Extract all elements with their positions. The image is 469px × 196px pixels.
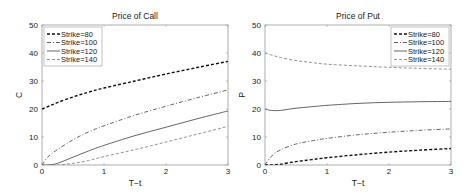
chart-canvas: 012301020304050Price of CallT−tCStrike=8… — [0, 0, 469, 196]
legend-label: Strike=140 — [408, 55, 444, 64]
x-tick-label: 0 — [263, 167, 268, 176]
x-axis-label: T−t — [352, 178, 365, 188]
x-tick-label: 2 — [387, 167, 392, 176]
y-tick-label: 40 — [29, 49, 38, 58]
y-tick-label: 10 — [252, 133, 261, 142]
chart-title: Price of Put — [336, 11, 381, 21]
x-tick-label: 3 — [226, 167, 231, 176]
y-tick-label: 40 — [252, 49, 261, 58]
x-axis-label: T−t — [129, 178, 142, 188]
x-tick-label: 2 — [164, 167, 169, 176]
y-axis-label: C — [14, 92, 24, 98]
x-tick-label: 0 — [40, 167, 45, 176]
y-tick-label: 20 — [252, 105, 261, 114]
chart-title: Price of Call — [112, 11, 158, 21]
y-tick-label: 10 — [29, 133, 38, 142]
x-tick-label: 1 — [102, 167, 107, 176]
legend-label: Strike=140 — [61, 55, 97, 64]
y-tick-label: 30 — [29, 77, 38, 86]
legend: Strike=80Strike=100Strike=120Strike=140 — [44, 27, 102, 66]
y-tick-label: 0 — [257, 161, 262, 170]
y-axis-label: P — [237, 92, 247, 98]
y-tick-label: 50 — [29, 21, 38, 30]
legend: Strike=80Strike=100Strike=120Strike=140 — [391, 27, 449, 66]
y-tick-label: 30 — [252, 77, 261, 86]
y-tick-label: 50 — [252, 21, 261, 30]
x-tick-label: 3 — [449, 167, 454, 176]
call-price-chart: 012301020304050Price of CallT−tCStrike=8… — [14, 11, 231, 188]
y-tick-label: 20 — [29, 105, 38, 114]
y-tick-label: 0 — [34, 161, 39, 170]
put-price-chart: 012301020304050Price of PutT−tPStrike=80… — [237, 11, 454, 188]
x-tick-label: 1 — [325, 167, 330, 176]
